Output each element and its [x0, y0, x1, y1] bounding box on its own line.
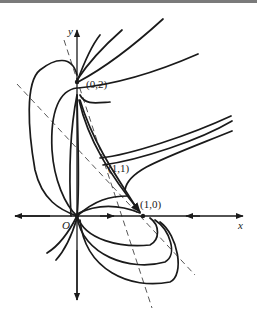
equilibrium-0-2 — [75, 80, 79, 84]
label-0-2: (0,2) — [86, 78, 107, 91]
y-axis-label: y — [67, 25, 73, 37]
origin-label: O — [62, 219, 70, 231]
label-1-0: (1,0) — [140, 198, 161, 211]
label-1-1: (1,1) — [108, 162, 129, 175]
equilibrium-1-0 — [141, 214, 145, 218]
x-axis-label: x — [237, 219, 243, 231]
equilibrium-origin — [75, 214, 79, 218]
dashed-line-1 — [17, 84, 195, 275]
phase-portrait: y x O (0,2) (1,1) (1,0) — [0, 0, 257, 322]
